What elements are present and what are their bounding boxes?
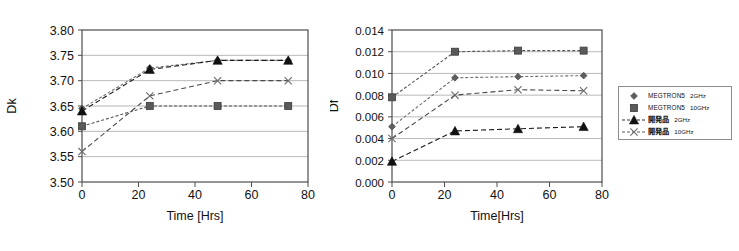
xaxis-tick-label: 20 [438,188,452,202]
marker-diamond [631,93,638,100]
series-line [392,127,584,162]
series-line [392,90,584,139]
legend-item: MEGTRON5 2GHz [621,90,729,102]
legend-item: MEGTRON5 10GHz [621,102,729,114]
legend-label-name: 開発品 [647,114,669,126]
legend-label-name: MEGTRON5 [647,102,685,114]
marker-square [389,94,396,101]
legend-item: 開発品 2GHz [621,114,729,126]
yaxis-tick-label: 3.70 [50,74,74,88]
legend-label-freq: 2GHz [685,90,706,102]
figure-container: 3.503.553.603.653.703.753.80020406080Tim… [0,0,739,251]
yaxis-tick-label: 0.002 [355,155,384,167]
legend-key-square-icon [621,102,647,114]
marker-triangle [387,157,396,166]
series-line [82,60,288,111]
series-markers [389,72,587,130]
marker-square [146,103,153,110]
legend-label-name: 開発品 [647,126,669,138]
yaxis-tick-label: 3.65 [50,100,74,114]
yaxis-tick-label: 3.80 [50,24,74,38]
series-markers [388,86,587,142]
page-bottom-text [0,246,739,251]
xaxis-tick-label: 0 [79,188,86,202]
marker-square [452,48,459,55]
yaxis-tick-label: 3.50 [50,176,74,190]
yaxis-tick-label: 3.75 [50,49,74,63]
series-markers [79,103,292,130]
marker-triangle [77,106,86,115]
marker-cross [146,92,153,99]
yaxis-tick-label: 0.010 [355,68,384,80]
marker-square [631,105,638,112]
xaxis-tick-label: 40 [490,188,504,202]
yaxis-tick-label: 0.012 [355,46,384,58]
xaxis-tick-label: 0 [389,188,396,202]
marker-square [580,47,587,54]
xaxis-tick-label: 60 [245,188,259,202]
series-line [82,106,288,126]
legend-key-cross-icon [621,126,647,138]
plot-frame [392,30,602,182]
yaxis-tick-label: 0.014 [355,25,384,37]
marker-diamond [515,73,522,80]
yaxis-tick-label: 0.008 [355,90,384,102]
dk-chart-svg: 3.503.553.603.653.703.753.80020406080Tim… [0,0,340,251]
marker-square [515,47,522,54]
yaxis-tick-label: 0.000 [355,177,384,189]
xaxis-tick-label: 40 [188,188,202,202]
yaxis-title: Dk [5,98,19,114]
legend-key-diamond-icon [621,90,647,102]
yaxis-tick-label: 3.55 [50,150,74,164]
legend-item: 開発品 10GHz [621,126,729,138]
chart-panel-df: 0.0000.0020.0040.0060.0080.0100.0120.014… [330,0,620,251]
marker-diamond [389,123,396,130]
xaxis-title: Time[Hrs] [470,209,524,223]
chart-panel-dk: 3.503.553.603.653.703.753.80020406080Tim… [0,0,340,251]
legend-key-triangle-icon [621,114,647,126]
series-markers [387,122,588,165]
legend-label-freq: 10GHz [685,102,709,114]
xaxis-tick-label: 20 [132,188,146,202]
marker-square [285,103,292,110]
series-line [82,60,288,108]
marker-cross [630,128,637,135]
series-markers [389,47,588,101]
legend-box: MEGTRON5 2GHz MEGTRON5 10GHz 開発品 2GHz 開発… [618,86,732,140]
yaxis-tick-label: 0.004 [355,133,384,145]
series-line [82,81,288,152]
xaxis-title: Time [Hrs] [166,209,223,223]
legend-label-freq: 10GHz [669,126,693,138]
xaxis-tick-label: 60 [543,188,557,202]
legend-label-freq: 2GHz [669,114,690,126]
yaxis-title: Df [330,99,341,112]
xaxis-tick-label: 80 [301,188,315,202]
series-markers [78,77,291,155]
marker-square [79,123,86,130]
xaxis-tick-label: 80 [595,188,609,202]
legend-label-name: MEGTRON5 [647,90,685,102]
marker-square [214,103,221,110]
df-chart-svg: 0.0000.0020.0040.0060.0080.0100.0120.014… [330,0,620,251]
yaxis-tick-label: 0.006 [355,111,384,123]
yaxis-tick-label: 3.60 [50,125,74,139]
